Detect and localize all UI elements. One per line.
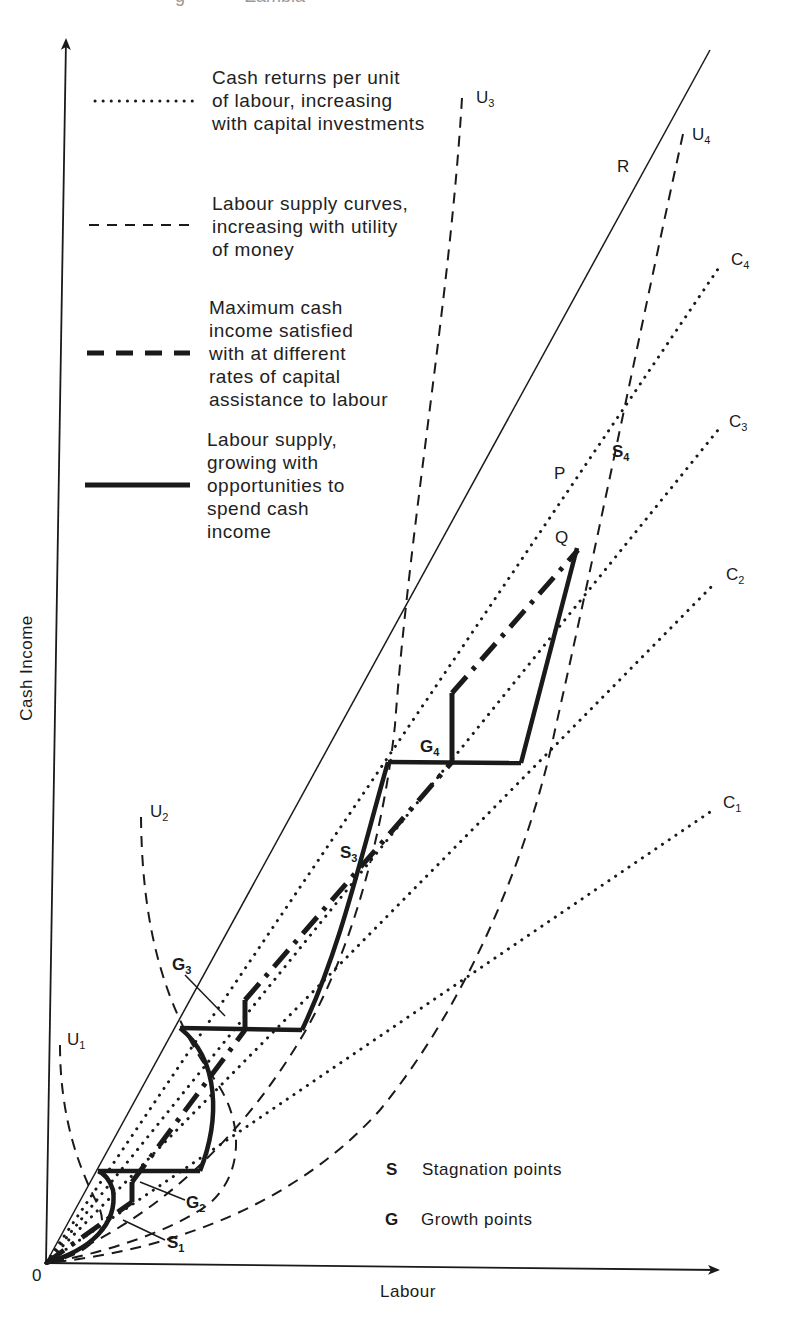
c3-label: C3: [729, 412, 747, 433]
legend-line: with at different: [209, 342, 388, 365]
key-letter: G: [385, 1210, 421, 1230]
key-stagnation: SStagnation points: [386, 1160, 562, 1180]
s3-label: S3: [340, 843, 357, 864]
c4-line: [46, 266, 720, 1263]
u3-label: U3: [476, 88, 494, 109]
legend-line: of money: [212, 238, 408, 261]
y-axis-label: Cash Income: [17, 615, 37, 721]
legend-line: income: [207, 520, 345, 543]
labour-supply-curve: [46, 548, 577, 1263]
key-growth: GGrowth points: [385, 1210, 532, 1230]
c-lines: [46, 266, 720, 1263]
legend-line: rates of capital: [209, 365, 388, 388]
legend-item-maximum-cash-income: Maximum cash income satisfied with at di…: [209, 296, 388, 411]
legend-swatches: [85, 101, 197, 485]
x-axis: [46, 1263, 718, 1270]
u1-label: U1: [67, 1030, 85, 1051]
y-axis: [46, 40, 66, 1263]
key-letter: S: [386, 1160, 422, 1180]
legend-line: income satisfied: [209, 319, 388, 342]
legend-line: growing with: [207, 451, 345, 474]
title-fragment-right: Zambia: [245, 0, 305, 7]
g2-label: G2: [186, 1193, 205, 1214]
u3-curve: [46, 98, 462, 1263]
origin-label: 0: [32, 1266, 42, 1286]
legend-line: of labour, increasing: [212, 89, 425, 112]
title-fragment-left: g: [175, 0, 185, 7]
key-text: Stagnation points: [422, 1160, 562, 1179]
r-label: R: [617, 157, 629, 177]
legend-item-labour-supply-curves: Labour supply curves, increasing with ut…: [212, 192, 408, 261]
legend-line: assistance to labour: [209, 388, 388, 411]
point-pointers: [123, 975, 225, 1240]
legend-line: spend cash: [207, 497, 345, 520]
legend-line: increasing with utility: [212, 215, 408, 238]
key-text: Growth points: [421, 1210, 532, 1229]
legend-line: Labour supply curves,: [212, 192, 408, 215]
s1-label: S1: [167, 1233, 184, 1254]
legend-line: Cash returns per unit: [212, 66, 425, 89]
u4-label: U4: [692, 125, 710, 146]
legend-line: with capital investments: [212, 112, 425, 135]
legend-item-cash-returns: Cash returns per unit of labour, increas…: [212, 66, 425, 135]
legend-line: Labour supply,: [207, 428, 345, 451]
s4-label: S4: [612, 442, 629, 463]
c2-label: C2: [726, 565, 744, 586]
q-label: Q: [555, 528, 568, 548]
x-axis-label: Labour: [380, 1282, 436, 1302]
legend-line: opportunities to: [207, 474, 345, 497]
max-cash-line: [46, 550, 578, 1263]
c2-line: [46, 582, 716, 1263]
c1-label: C1: [723, 793, 741, 814]
legend-line: Maximum cash: [209, 296, 388, 319]
c1-line: [46, 810, 713, 1263]
c4-label: C4: [731, 250, 749, 271]
g4-label: G4: [420, 737, 439, 758]
c3-line: [46, 430, 718, 1263]
g3-label: G3: [172, 955, 191, 976]
p-label: P: [554, 464, 565, 484]
u2-label: U2: [150, 802, 168, 823]
legend-item-labour-supply-growing: Labour supply, growing with opportunitie…: [207, 428, 345, 543]
